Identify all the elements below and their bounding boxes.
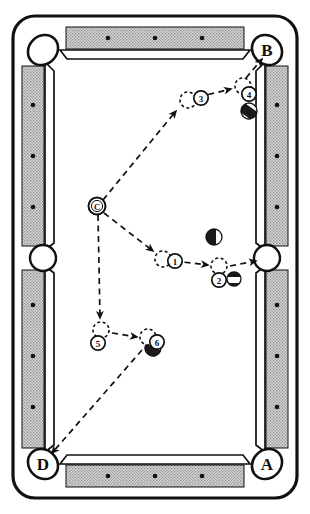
rail-left-lower	[22, 270, 44, 448]
rail-dot-left-4	[31, 303, 36, 308]
object-ball-center	[206, 229, 222, 245]
rail-dot-left-6	[31, 405, 36, 410]
rail-dot-right-4	[275, 303, 280, 308]
pocket-label-B: B	[261, 41, 272, 60]
rail-dot-left-5	[31, 354, 36, 359]
rail-dot-right-3	[275, 205, 280, 210]
pocket-label-A: A	[261, 455, 274, 474]
cue-ball-marker: C	[89, 198, 106, 215]
rail-dot-bottom-3	[200, 474, 205, 479]
badge-label-4: 4	[247, 90, 252, 100]
ghost-position-1: 1	[155, 251, 182, 268]
rail-dot-bottom-1	[106, 474, 111, 479]
badge-label-6: 6	[155, 338, 160, 348]
rail-dot-left-3	[31, 205, 36, 210]
rail-dot-left-2	[31, 154, 36, 159]
rail-dot-right-1	[275, 103, 280, 108]
pocket-side-left-mouth	[30, 245, 56, 271]
rail-dot-top-2	[153, 36, 158, 41]
badge-label-5: 5	[96, 339, 101, 349]
rail-dot-top-3	[200, 36, 205, 41]
rail-dot-left-1	[31, 103, 36, 108]
pool-table-diagram: B D A	[0, 0, 310, 514]
ghost-position-2: 2	[211, 258, 227, 287]
badge-label-1: 1	[173, 257, 178, 267]
pocket-side-right[interactable]	[254, 245, 280, 271]
cushion-bottom	[60, 455, 250, 464]
rail-dot-right-2	[275, 154, 280, 159]
cushion-left-lower	[45, 266, 54, 452]
pocket-side-right-mouth	[254, 245, 280, 271]
cushion-right-lower	[256, 266, 265, 452]
cushion-right-upper	[256, 62, 265, 250]
cushion-left-upper	[45, 62, 54, 250]
rail-dot-top-1	[106, 36, 111, 41]
cue-ball-label: C	[94, 202, 100, 212]
pocket-side-left[interactable]	[30, 245, 56, 271]
pocket-label-D: D	[37, 455, 49, 474]
rail-dot-bottom-2	[153, 474, 158, 479]
badge-label-3: 3	[199, 94, 204, 104]
rail-dot-right-6	[275, 405, 280, 410]
badge-label-2: 2	[217, 276, 222, 286]
ghost-ball-2	[211, 258, 227, 274]
cushion-top	[60, 50, 250, 59]
rail-right-lower	[266, 270, 288, 448]
rail-dot-right-5	[275, 354, 280, 359]
diagram-canvas: B D A	[0, 0, 310, 514]
object-ball-near-2	[227, 272, 241, 286]
